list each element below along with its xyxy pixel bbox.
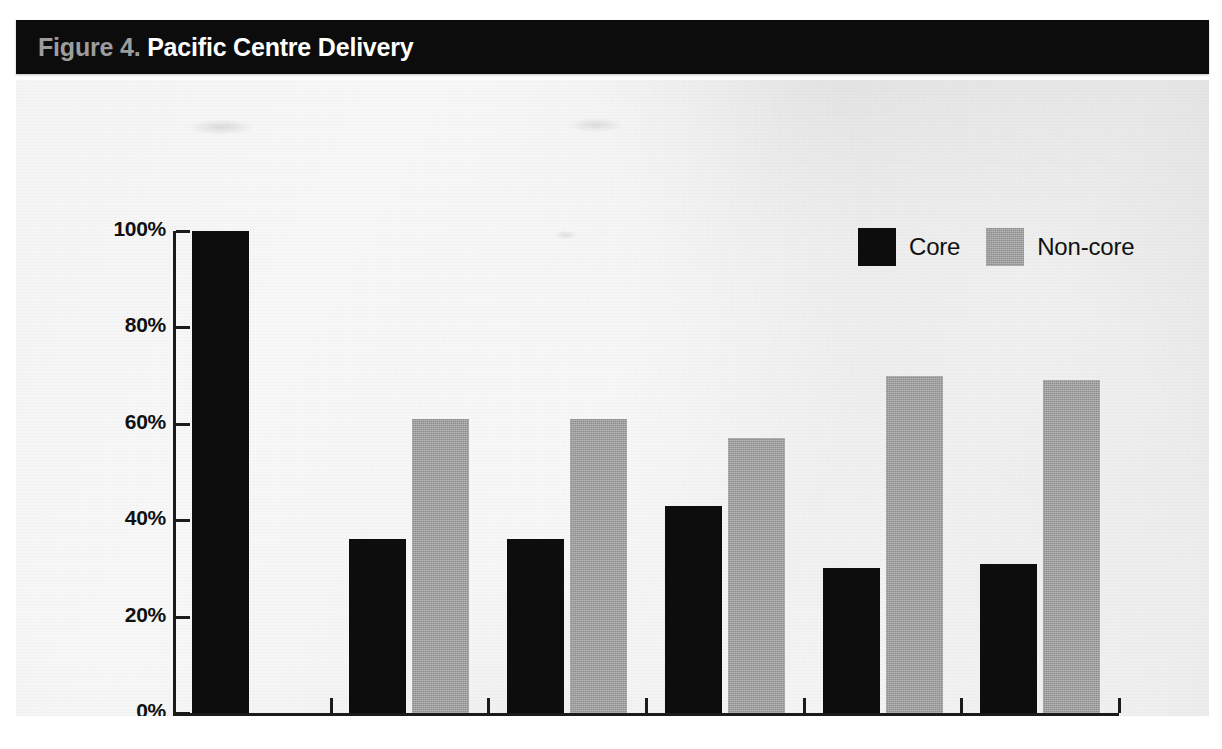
bar-2009-core [823,568,880,713]
bar-group [16,80,1209,713]
page-title: Figure 4. Pacific Centre Delivery [38,33,414,62]
legend-label-noncore: Non-core [1037,233,1134,261]
x-axis-line [173,713,1119,716]
bar-2007-core [507,539,564,713]
legend-label-core: Core [909,233,960,261]
figure-number-label: Figure 4. [38,33,140,61]
bar-2008-core [665,506,722,713]
figure-container: Figure 4. Pacific Centre Delivery 0%20%4… [0,0,1222,749]
bar-2009-non-core [886,376,943,713]
bar-2005-core [192,231,249,713]
bar-2010-core [980,564,1037,713]
bar-2008-non-core [728,438,785,713]
bar-2006-core [349,539,406,713]
bar-2006-non-core [412,419,469,713]
legend-item-core: Core [858,228,960,266]
chart-plot-area: 0%20%40%60%80%100% 200520062007200820092… [16,80,1209,716]
chart-legend: Core Non-core [858,228,1134,266]
legend-swatch-noncore-icon [986,228,1024,266]
figure-title-label: Pacific Centre Delivery [147,33,413,61]
bar-2010-non-core [1043,380,1100,713]
figure-title-bar: Figure 4. Pacific Centre Delivery [16,20,1209,74]
bar-2007-non-core [570,419,627,713]
legend-item-noncore: Non-core [986,228,1134,266]
legend-swatch-core-icon [858,228,896,266]
